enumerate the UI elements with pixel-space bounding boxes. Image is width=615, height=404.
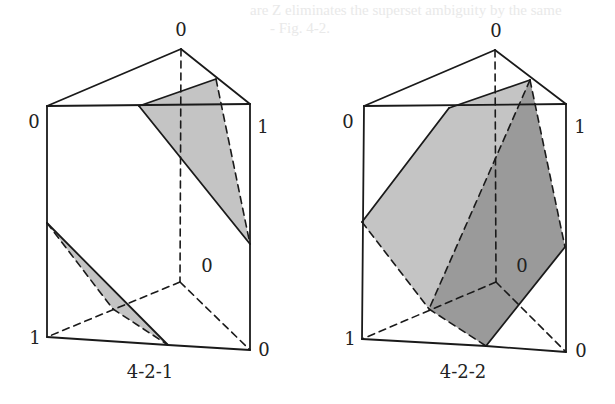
vertex-label: 1 — [574, 116, 585, 137]
visible-edge — [168, 345, 250, 350]
vertex-label: 1 — [29, 327, 40, 348]
visible-edge — [362, 339, 486, 346]
hidden-edge — [180, 49, 181, 282]
figure-4-2-1: 0010104-2-1 — [28, 19, 269, 382]
visible-edge — [47, 337, 168, 345]
vertex-label: 0 — [575, 340, 586, 361]
vertex-label: 1 — [344, 328, 355, 349]
vertex-label: 0 — [258, 339, 269, 360]
hidden-edge — [47, 223, 113, 309]
vertex-label: 1 — [257, 116, 268, 137]
vertex-label: 0 — [28, 111, 39, 132]
visible-edge — [486, 346, 566, 352]
hidden-edge — [180, 282, 250, 350]
visible-edge — [364, 50, 495, 106]
figure-4-2-2: 0010104-2-2 — [342, 20, 586, 382]
figure-caption: 4-2-1 — [127, 361, 174, 382]
prism-diagrams: 0010104-2-1 0010104-2-2 — [0, 0, 615, 404]
figure-caption: 4-2-2 — [440, 361, 487, 382]
visible-edge — [47, 223, 168, 345]
vertex-label: 0 — [175, 19, 186, 40]
vertex-label: 0 — [516, 255, 527, 276]
vertex-label: 0 — [490, 20, 501, 41]
vertex-label: 0 — [342, 111, 353, 132]
vertex-label: 0 — [201, 255, 212, 276]
